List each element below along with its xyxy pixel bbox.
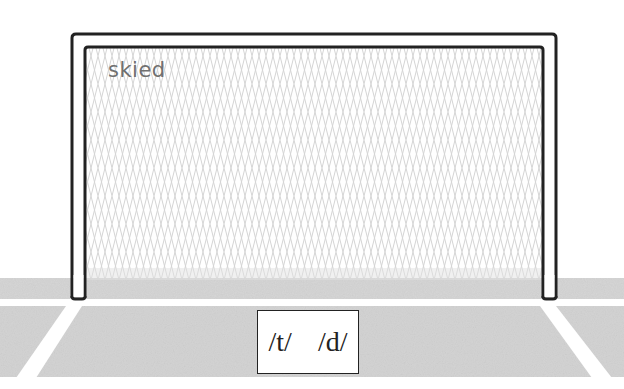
goal-line	[0, 299, 624, 306]
word-label: skied	[108, 58, 166, 82]
phoneme-choices-text: /t/ /d/	[269, 326, 348, 358]
bottom-line	[0, 377, 624, 389]
grass-back	[0, 278, 624, 300]
phoneme-choices-box[interactable]: /t/ /d/	[257, 310, 359, 374]
goal-net	[86, 48, 542, 280]
